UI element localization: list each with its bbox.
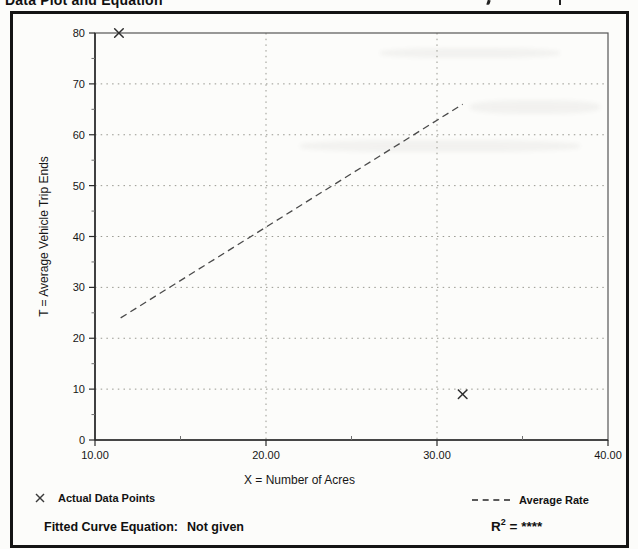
y-tick-label: 40 xyxy=(73,231,85,243)
r-squared-rest: = **** xyxy=(506,519,542,534)
fitted-curve-equation-label: Fitted Curve Equation: xyxy=(44,520,178,534)
y-tick-label: 60 xyxy=(73,129,85,141)
y-tick-label: 70 xyxy=(73,78,85,90)
y-tick-label: 10 xyxy=(73,383,85,395)
y-tick-label: 80 xyxy=(73,27,85,39)
x-tick-label: 20.00 xyxy=(252,449,280,461)
r-squared-value: R2 = **** xyxy=(491,517,542,534)
legend-label-average-rate: Average Rate xyxy=(519,494,589,506)
r-squared-base: R xyxy=(491,519,501,534)
y-tick-label: 50 xyxy=(73,180,85,192)
legend-actual-data-points: Actual Data Points xyxy=(34,492,155,504)
y-tick-label: 30 xyxy=(73,281,85,293)
legend-label-actual-data-points: Actual Data Points xyxy=(58,492,155,504)
legend-average-rate: Average Rate xyxy=(472,494,589,506)
x-tick-label: 40.00 xyxy=(594,449,622,461)
y-tick-label: 20 xyxy=(73,332,85,344)
trip-generation-scatter-plot: 10.0020.0030.0040.0001020304050607080X =… xyxy=(0,0,638,549)
dashed-line-icon xyxy=(472,499,510,501)
x-marker-icon xyxy=(34,492,46,504)
x-tick-label: 10.00 xyxy=(81,449,109,461)
x-axis-label: X = Number of Acres xyxy=(244,473,355,487)
fitted-curve-equation: Fitted Curve Equation:Not given xyxy=(44,520,244,534)
x-tick-label: 30.00 xyxy=(423,449,451,461)
fitted-curve-equation-value: Not given xyxy=(187,520,244,534)
y-tick-label: 0 xyxy=(79,434,85,446)
y-axis-label: T = Average Vehicle Trip Ends xyxy=(37,156,51,317)
average-rate-line xyxy=(121,104,463,318)
